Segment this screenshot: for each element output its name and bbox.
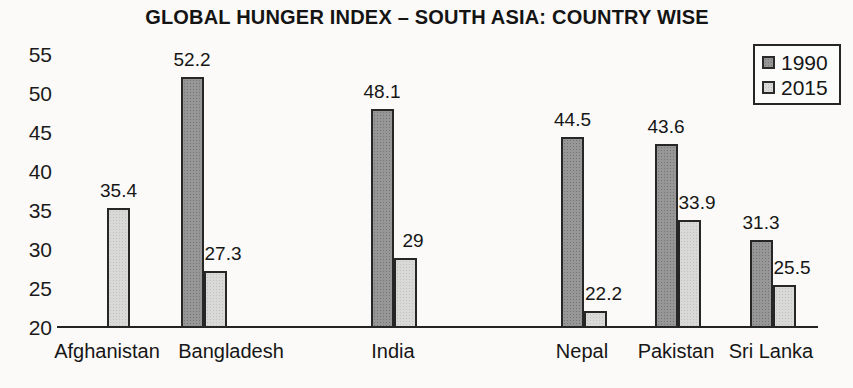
legend-swatch-1990-icon: [762, 56, 775, 69]
x-axis-category-label-afghanistan: Afghanistan: [54, 340, 160, 363]
y-axis-tick-label: 50: [12, 82, 52, 106]
y-axis-tick-label: 40: [12, 160, 52, 184]
y-axis-tick-label: 20: [12, 316, 52, 340]
y-axis-tick-label: 45: [12, 121, 52, 145]
bar-1990-pakistan: [655, 144, 678, 328]
bar-value-label-1990-sri-lanka: 31.3: [743, 212, 780, 234]
bar-1990-nepal: [561, 137, 584, 328]
x-axis-category-label-sri-lanka: Sri Lanka: [729, 340, 814, 363]
bar-2015-india: [394, 258, 417, 328]
bar-value-label-1990-india: 48.1: [364, 81, 401, 103]
x-axis-category-label-india: India: [371, 340, 414, 363]
bar-value-label-2015-sri-lanka: 25.5: [774, 257, 811, 279]
y-axis-tick-label: 55: [12, 43, 52, 67]
x-axis-category-label-bangladesh: Bangladesh: [178, 340, 284, 363]
x-axis-category-label-nepal: Nepal: [556, 340, 608, 363]
bar-2015-sri-lanka: [773, 285, 796, 328]
legend-item-2015: 2015: [762, 75, 837, 99]
bar-1990-india: [371, 109, 394, 328]
bar-value-label-1990-pakistan: 43.6: [648, 116, 685, 138]
legend-item-1990: 1990: [762, 50, 837, 74]
y-axis-tick-label: 35: [12, 199, 52, 223]
legend: 1990 2015: [753, 44, 841, 105]
y-axis-tick-label: 25: [12, 277, 52, 301]
bar-2015-pakistan: [678, 220, 701, 328]
plot-area: 555045403530252035.4Afghanistan52.227.3B…: [0, 0, 853, 388]
bar-1990-bangladesh: [181, 77, 204, 328]
bar-2015-bangladesh: [204, 271, 227, 328]
bar-value-label-1990-bangladesh: 52.2: [174, 49, 211, 71]
bar-value-label-2015-bangladesh: 27.3: [205, 243, 242, 265]
bar-value-label-2015-india: 29: [402, 230, 423, 252]
chart-page: GLOBAL HUNGER INDEX – SOUTH ASIA: COUNTR…: [0, 0, 853, 388]
legend-swatch-2015-icon: [762, 81, 775, 94]
legend-label-2015: 2015: [781, 77, 828, 98]
legend-label-1990: 1990: [781, 52, 828, 73]
bar-2015-afghanistan: [107, 208, 130, 328]
x-axis-line: [57, 326, 818, 328]
bar-value-label-2015-pakistan: 33.9: [679, 192, 716, 214]
bar-value-label-2015-afghanistan: 35.4: [100, 180, 137, 202]
bar-1990-sri-lanka: [750, 240, 773, 328]
bar-value-label-2015-nepal: 22.2: [585, 283, 622, 305]
bar-2015-nepal: [584, 311, 607, 328]
x-axis-category-label-pakistan: Pakistan: [638, 340, 715, 363]
bar-value-label-1990-nepal: 44.5: [554, 109, 591, 131]
y-axis-tick-label: 30: [12, 238, 52, 262]
